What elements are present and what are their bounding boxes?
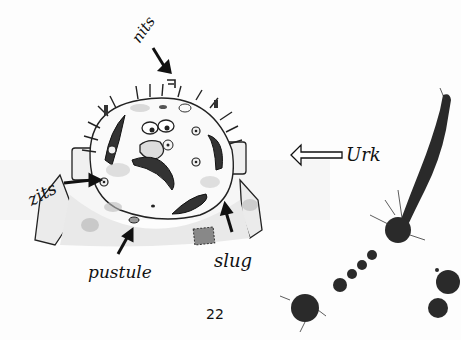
label-slug: slug bbox=[214, 250, 252, 271]
illustration bbox=[0, 0, 461, 340]
left-eye bbox=[142, 122, 158, 134]
label-pustule: pustule bbox=[88, 262, 152, 282]
page-number: 22 bbox=[206, 306, 224, 322]
patch bbox=[193, 227, 215, 245]
nose bbox=[140, 141, 164, 160]
nit bbox=[167, 80, 175, 88]
book-page: nits zits pustule slug Urk 22 bbox=[0, 0, 461, 340]
label-urk: Urk bbox=[346, 144, 381, 165]
